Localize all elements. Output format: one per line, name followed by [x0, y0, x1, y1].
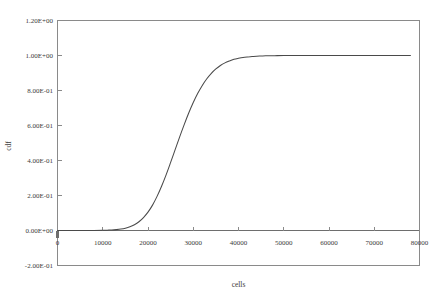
x-tick-label: 70000	[366, 239, 384, 247]
x-tick-label: 0	[56, 239, 60, 247]
x-tick-label: 20000	[139, 239, 157, 247]
y-tick-label: 4.00E-01	[27, 157, 53, 165]
chart-background	[0, 0, 440, 299]
x-tick-label: 10000	[94, 239, 112, 247]
y-tick-label: 6.00E-01	[27, 122, 53, 130]
y-tick-label: 1.20E+00	[26, 17, 54, 25]
x-tick-label: 30000	[185, 239, 203, 247]
y-tick-label: 1.00E+00	[26, 52, 54, 60]
x-tick-label: 60000	[320, 239, 338, 247]
x-tick-label: 50000	[275, 239, 293, 247]
origin-marker	[56, 231, 59, 238]
x-tick-label: 80000	[411, 239, 429, 247]
y-tick-label: 0.00E+00	[26, 227, 54, 235]
x-axis-title: cells	[232, 280, 246, 289]
x-tick-label: 40000	[230, 239, 248, 247]
cdf-line-chart: 1.20E+00 1.00E+00 8.00E-01 6.00E-01 4.00…	[0, 0, 440, 299]
y-tick-label: 8.00E-01	[27, 87, 53, 95]
y-tick-label: 2.00E-01	[27, 192, 53, 200]
y-tick-label: -2.00E-01	[25, 262, 54, 270]
y-axis-title: cdf	[4, 141, 13, 151]
chart-container: 1.20E+00 1.00E+00 8.00E-01 6.00E-01 4.00…	[0, 0, 440, 299]
